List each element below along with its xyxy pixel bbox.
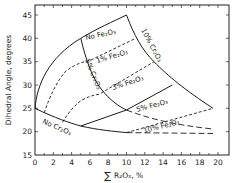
x-tick-label: 14 [158,158,168,167]
curve-10-cr2o3 [127,15,214,108]
x-axis-title: R₂O₃, % [114,171,143,180]
x-tick-label: 8 [106,158,111,167]
chart: 15 20 25 30 35 40 45 0 2 4 6 8 10 12 14 … [0,0,232,183]
label-1-fe2o3: 1% Fe₂O₃ [95,48,129,65]
label-10-cr2o3: 10% Cr₂O₃ [139,27,163,63]
y-tick-label: 15 [22,151,32,160]
y-tick-label: 35 [22,57,32,66]
label-no-fe2o3: No Fe₂O₃ [85,28,117,42]
curve-5-cr2o3 [81,38,127,110]
curve-no-cr2o3-extension [127,133,214,134]
y-axis-title: Dihedral Angle, degrees [4,35,13,126]
curves [35,15,213,134]
x-tick-label: 0 [33,158,38,167]
y-tick-label: 40 [22,34,32,43]
label-no-cr2o3: No Cr₂O₃ [41,118,72,138]
curve-3-fe2o3 [63,62,155,123]
x-tick-label: 18 [195,158,205,167]
y-tick-label: 30 [22,81,32,90]
x-tick-label: 16 [177,158,187,167]
x-tick-label: 4 [69,158,74,167]
curve-labels: No Fe₂O₃ 1% Fe₂O₃ 3% Fe₂O₃ 5% Fe₂O₃ 10% … [41,27,180,137]
x-tick-label: 2 [51,158,56,167]
sum-symbol: ∑ [104,170,111,181]
x-tick-label: 10 [122,158,132,167]
x-tick-label: 12 [140,158,150,167]
y-tick-label: 45 [22,11,32,20]
x-tick-label: 20 [213,158,223,167]
x-tick-label: 6 [88,158,93,167]
y-tick-label: 20 [22,127,32,136]
y-tick-label: 25 [22,104,32,113]
label-5-fe2o3: 5% Fe₂O₃ [135,98,169,114]
